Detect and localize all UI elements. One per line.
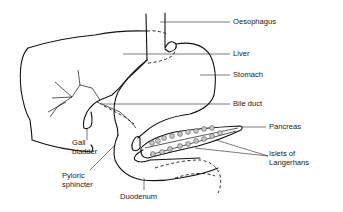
label-liver: Liver [233,50,249,59]
label-pancreas: Pancreas [269,123,301,132]
oesophagus-shape [146,13,176,60]
label-gall-line2: bladder [72,148,97,157]
label-duodenum: Duodenum [120,193,157,202]
label-bile-duct: Bile duct [233,100,262,109]
stomach-shape [114,43,215,138]
label-oesophagus: Oesophagus [233,18,276,27]
label-pyloric-line2: sphincter [62,181,93,190]
label-stomach: Stomach [233,71,263,80]
liver-shape [20,31,176,152]
diagram-drawing [0,0,343,212]
label-islets-line2: Langerhans [269,159,309,168]
anatomy-diagram: Oesophagus Liver Stomach Bile duct Pancr… [0,0,343,212]
pancreas-shape [141,126,242,158]
